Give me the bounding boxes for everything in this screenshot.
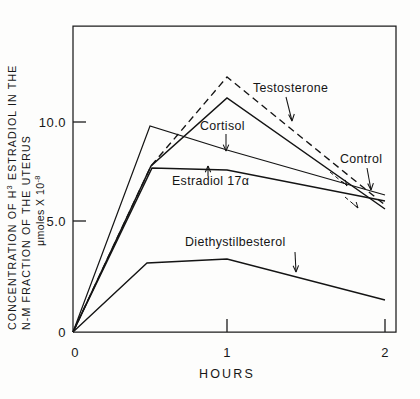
line-chart: 10.0 5.0 0 0 1 2 HOURS CONCENTRATION OF … xyxy=(0,0,420,399)
x-axis-title: HOURS xyxy=(199,367,255,381)
y-axis-title-line1: CONCENTRATION OF H3 ESTRADIOL IN THE xyxy=(5,65,18,330)
series-label-diethystilbesterol: Diethystilbesterol xyxy=(185,235,286,249)
series-line-control xyxy=(73,126,385,332)
y-axis-ticks xyxy=(73,122,86,221)
series-label-testosterone: Testosterone xyxy=(253,81,328,95)
arrowhead-dash-lower xyxy=(353,202,358,208)
x-axis-ticks xyxy=(227,319,385,332)
series-line-diethystilbesterol xyxy=(73,259,385,332)
x-tick-label-2: 2 xyxy=(381,345,389,360)
x-tick-label-0: 0 xyxy=(71,345,79,360)
x-tick-label-1: 1 xyxy=(223,345,231,360)
leader-testosterone xyxy=(286,97,292,121)
y-axis-units: μmoles X 10-8 xyxy=(33,175,46,246)
y-tick-label-5: 5.0 xyxy=(46,214,66,229)
series-line-testosterone xyxy=(73,77,385,332)
series-line-cortisol xyxy=(73,98,385,332)
right-cluster-leaders xyxy=(330,172,358,208)
series-label-estradiol-17a: Estradiol 17α xyxy=(172,174,249,188)
y-tick-label-0: 0 xyxy=(58,325,66,340)
series-label-control: Control xyxy=(340,152,382,166)
figure-container: 10.0 5.0 0 0 1 2 HOURS CONCENTRATION OF … xyxy=(0,0,420,399)
y-tick-label-10: 10.0 xyxy=(39,115,66,130)
y-axis-title-group: CONCENTRATION OF H3 ESTRADIOL IN THE N-M… xyxy=(5,65,46,330)
y-axis-title-line2: N-M FRACTION OF THE UTERUS xyxy=(20,135,32,330)
series-line-estradiol-17a xyxy=(73,168,385,332)
series-label-cortisol: Cortisol xyxy=(200,119,245,133)
